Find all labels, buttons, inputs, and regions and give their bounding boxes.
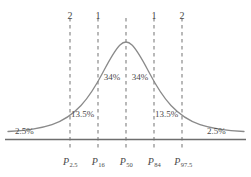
percentile-label-p50: P50 — [120, 157, 133, 167]
percentile-label-p16: P16 — [92, 157, 105, 167]
dashed-sd-lines — [70, 18, 182, 151]
region-label-left-34: 34% — [104, 73, 121, 82]
percentile-symbol-p16: P — [92, 156, 98, 167]
region-label-right-2-5: 2.5% — [207, 127, 226, 136]
percentile-subscript-p50: 50 — [126, 161, 133, 168]
percentile-subscript-p2-5: 2.5 — [69, 161, 77, 168]
percentile-subscript-p84: 84 — [154, 161, 161, 168]
percentile-symbol-p2-5: P — [63, 156, 69, 167]
sd-top-label-plus-1sd: 1 — [152, 11, 157, 21]
region-label-left-13-5: 13.5% — [71, 110, 94, 119]
region-label-right-13-5: 13.5% — [155, 110, 178, 119]
sd-top-label-plus-2sd: 2 — [180, 11, 185, 21]
sd-top-label-minus-2sd: 2 — [68, 11, 73, 21]
percentile-subscript-p16: 16 — [98, 161, 105, 168]
normal-distribution-figure: 2 1 1 2 34% 34% 13.5% 13.5% 2.5% 2.5% P2… — [0, 0, 251, 177]
percentile-label-p84: P84 — [148, 157, 161, 167]
percentile-symbol-p50: P — [120, 156, 126, 167]
region-label-left-2-5: 2.5% — [15, 127, 34, 136]
percentile-symbol-p97-5: P — [174, 156, 180, 167]
percentile-symbol-p84: P — [148, 156, 154, 167]
percentile-subscript-p97-5: 97.5 — [181, 161, 192, 168]
sd-top-label-minus-1sd: 1 — [96, 11, 101, 21]
region-label-right-34: 34% — [132, 73, 149, 82]
percentile-label-p97-5: P97.5 — [174, 157, 191, 167]
percentile-label-p2-5: P2.5 — [63, 157, 77, 167]
